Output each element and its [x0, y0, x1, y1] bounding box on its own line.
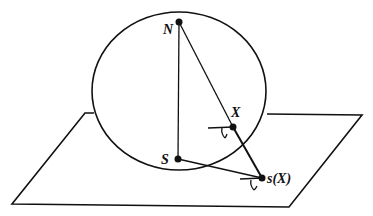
label-x: X [230, 105, 241, 120]
angle-mark-x [208, 127, 233, 138]
label-south: S [161, 152, 169, 167]
stereographic-diagram: N S X s(X) [0, 0, 373, 216]
point-south [175, 156, 182, 163]
label-projection: s(X) [266, 171, 291, 187]
plane [12, 113, 362, 207]
projection-ray [179, 22, 233, 127]
point-north [176, 19, 183, 26]
angle-mark-sx [240, 178, 262, 190]
projection-segment [233, 127, 262, 178]
axis-line [178, 22, 179, 159]
point-x [230, 124, 237, 131]
point-sx [259, 175, 266, 182]
label-north: N [162, 22, 174, 37]
